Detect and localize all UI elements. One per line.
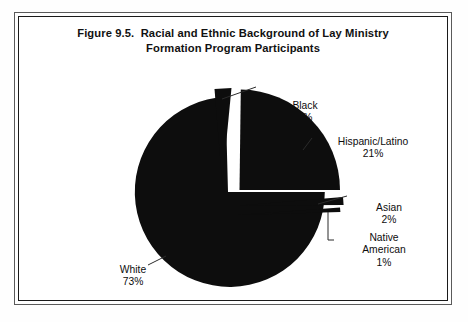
slice-label-asian-name: Asian bbox=[358, 202, 420, 214]
slice-label-hispanic-name: Hispanic/Latino bbox=[318, 136, 428, 148]
slice-label-native-american-name-1: Native bbox=[344, 232, 424, 244]
slice-label-white-value: 73% bbox=[102, 276, 164, 288]
slice-label-native-american-name-2: American bbox=[344, 244, 424, 256]
slice-label-asian: Asian 2% bbox=[358, 202, 420, 227]
figure-screenshot: Figure 9.5. Racial and Ethnic Background… bbox=[0, 0, 468, 322]
leader-line-native-american bbox=[328, 212, 334, 240]
slice-label-white-name: White bbox=[102, 264, 164, 276]
slice-label-native-american-value: 1% bbox=[344, 257, 424, 269]
slice-label-black-name: Black bbox=[270, 100, 340, 112]
slice-label-hispanic: Hispanic/Latino 21% bbox=[318, 136, 428, 161]
slice-label-white: White 73% bbox=[102, 264, 164, 289]
slice-label-asian-value: 2% bbox=[358, 214, 420, 226]
slice-label-black: Black 3% bbox=[270, 100, 340, 125]
slice-label-hispanic-value: 21% bbox=[318, 148, 428, 160]
pie-chart: Black 3% Hispanic/Latino 21% Asian 2% Na… bbox=[18, 16, 448, 301]
slice-label-native-american: Native American 1% bbox=[344, 232, 424, 269]
slice-label-black-value: 3% bbox=[270, 112, 340, 124]
